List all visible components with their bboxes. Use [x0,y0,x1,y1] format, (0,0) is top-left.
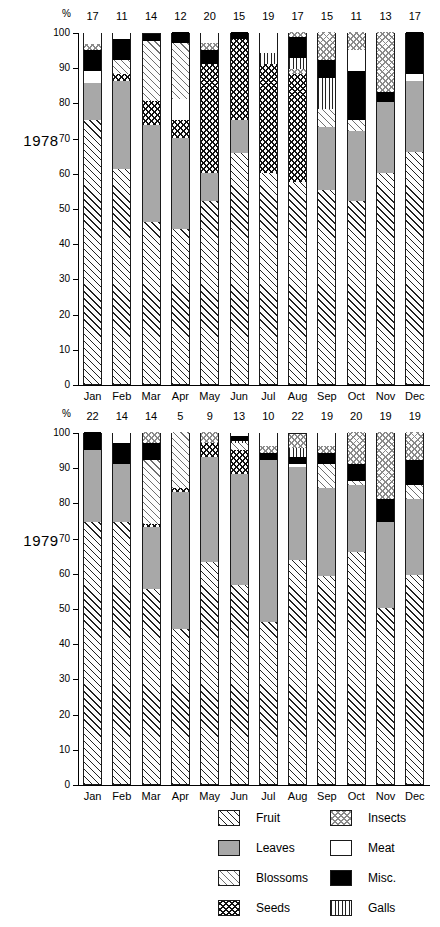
bar-segment-galls [260,53,277,64]
sample-size-label: 20 [342,410,371,422]
bar-group [78,33,430,385]
bar-segment-misc [84,432,101,450]
y-tick: 20 [40,315,78,316]
sample-size-label: 17 [400,10,429,22]
bar-segment-fruit [113,169,130,384]
bar-segment-leaves [348,131,365,201]
bar-segment-blossoms [318,109,335,127]
bar-segment-leaves [377,102,394,172]
segment-divider [289,433,306,434]
x-axis-label: Apr [166,790,195,802]
bar-segment-seeds [113,74,130,81]
bar-segment-galls [318,78,335,110]
sample-size-label: 14 [137,410,166,422]
bar-segment-insects [348,432,365,464]
chart-panel-1979: 1979 % 0102030405060708090100 2214145913… [0,400,440,800]
y-tick-label: 50 [59,603,70,614]
bar-segment-misc [289,457,306,464]
legend-swatch-misc [330,870,352,886]
y-tick: 20 [40,715,78,716]
bar-segment-misc [113,39,130,60]
y-tick-label: 10 [59,344,70,355]
legend-label: Insects [368,810,406,826]
bar-segment-misc [201,50,218,64]
plot-area [78,433,430,785]
y-tick-label: 20 [59,309,70,320]
stacked-bar [347,433,366,785]
bar-segment-insects [318,446,335,453]
y-tick-label: 10 [59,744,70,755]
bar-segment-leaves [113,464,130,522]
bar-segment-blossoms [113,60,130,74]
y-tick-label: 20 [59,709,70,720]
bar-segment-meat [201,32,218,43]
bar-segment-fruit [348,201,365,384]
bar-segment-misc [348,71,365,120]
bar-segment-seeds [201,443,218,457]
sample-size-label: 13 [225,410,254,422]
bar-segment-blossoms [172,432,189,488]
legend-swatch-leaves [218,840,240,856]
bar-segment-fruit [172,229,189,384]
y-tick: 40 [40,244,78,245]
sample-size-label: 14 [107,410,136,422]
bar-segment-meat [84,32,101,44]
bar-segment-misc [231,32,248,39]
sample-size-label: 20 [195,10,224,22]
y-tick: 10 [40,750,78,751]
sample-size-label: 17 [283,10,312,22]
bar-segment-leaves [289,467,306,560]
y-tick: 80 [40,103,78,104]
sample-size-label: 14 [137,10,166,22]
x-axis-label: Feb [107,790,136,802]
y-tick: 30 [40,679,78,680]
legend-label: Galls [368,900,395,916]
stacked-bar [83,433,102,785]
y-tick-label: 70 [59,533,70,544]
sample-size-label: 22 [78,410,107,422]
bar-segment-fruit [260,173,277,384]
y-tick-label: 50 [59,203,70,214]
sample-size-label: 5 [166,410,195,422]
y-tick: 40 [40,644,78,645]
bar-segment-galls [289,58,306,69]
bar-segment-misc [406,460,423,485]
bar-segment-fruit [260,622,277,784]
legend-label: Meat [368,840,395,856]
stacked-bar [376,33,395,385]
y-tick: 70 [40,139,78,140]
legend-swatch-galls [330,900,352,916]
bar-segment-leaves [231,120,248,153]
y-tick-label: 30 [59,673,70,684]
bar-segment-misc [406,32,423,74]
legend-swatch-meat [330,840,352,856]
bar-segment-leaves [260,460,277,622]
y-tick-label: 0 [64,379,70,390]
x-axis-label: Jun [225,790,254,802]
stacked-bar [200,433,219,785]
x-axis-label: Oct [342,790,371,802]
bar-segment-meat [84,71,101,83]
bar-segment-fruit [377,173,394,384]
sample-size-label: 15 [225,10,254,22]
bar-segment-misc [318,453,335,464]
y-tick: 90 [40,468,78,469]
y-tick: 0 [40,385,78,386]
y-tick-label: 80 [59,97,70,108]
y-tick-label: 90 [59,62,70,73]
stacked-bar [142,433,161,785]
bar-segment-leaves [113,81,130,169]
bar-segment-seeds [172,120,189,138]
stacked-bar [405,433,424,785]
legend-swatch-blossoms [218,870,240,886]
y-tick-label: 80 [59,497,70,508]
y-tick: 80 [40,503,78,504]
sample-size-label: 22 [283,410,312,422]
y-tick-label: 100 [53,27,70,38]
bar-segment-insects [289,32,306,37]
bar-segment-fruit [406,575,423,784]
sample-size-label: 10 [254,410,283,422]
bar-segment-misc [84,50,101,71]
bar-segment-fruit [201,562,218,784]
bar-segment-leaves [143,527,160,589]
